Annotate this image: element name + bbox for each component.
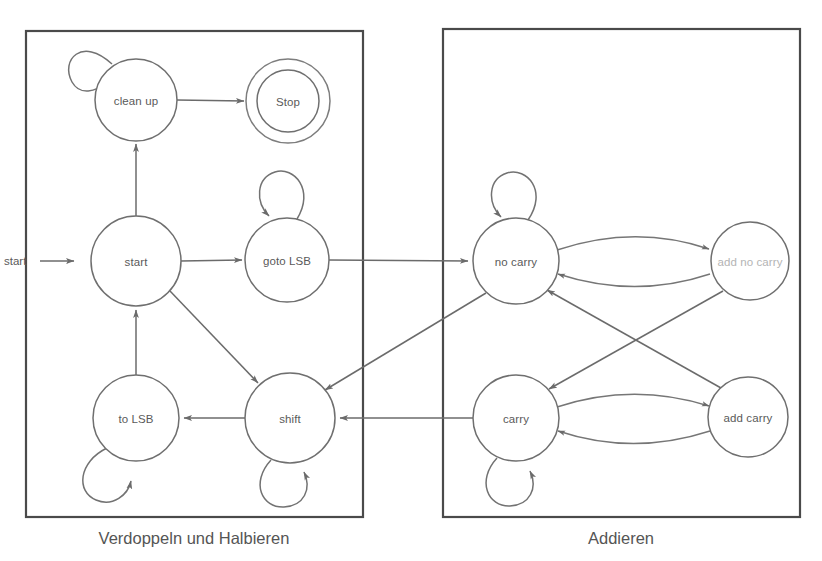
state-node-clean-up[interactable]: clean up [95, 59, 177, 141]
transition-cleanup-to-stop [177, 100, 244, 101]
state-node-no-carry[interactable]: no carry [473, 218, 559, 304]
state-node-add-no-carry[interactable]: add no carry [711, 222, 789, 300]
transition-nocarry-to-shift [325, 293, 486, 390]
state-label-start: start [125, 256, 149, 268]
transition-gotolsb-to-nocarry [329, 260, 468, 261]
transition-carry-to-addcarry [557, 394, 709, 407]
state-label-stop: Stop [276, 96, 300, 108]
state-label-carry: carry [503, 413, 529, 425]
state-diagram: clean up Stop start goto LSB to LSB shif… [0, 0, 822, 561]
self-loop-carry [486, 458, 533, 506]
state-label-to-lsb: to LSB [118, 413, 153, 425]
state-label-shift: shift [279, 413, 301, 425]
state-node-start[interactable]: start [91, 216, 181, 306]
state-node-goto-lsb[interactable]: goto LSB [245, 218, 329, 302]
self-loop-nocarry [491, 172, 536, 220]
state-label-no-carry: no carry [495, 256, 537, 268]
state-node-to-lsb[interactable]: to LSB [93, 375, 179, 461]
state-label-add-carry: add carry [724, 412, 773, 424]
group-caption-right: Addieren [588, 529, 654, 547]
state-label-add-no-carry: add no carry [717, 256, 782, 268]
transition-addcarry-to-carry [558, 431, 710, 444]
state-label-goto-lsb: goto LSB [263, 255, 311, 267]
transition-start-to-shift [170, 291, 258, 383]
transition-nocarry-to-addnocarry [557, 237, 709, 250]
state-node-stop[interactable]: Stop [246, 59, 330, 143]
state-node-shift[interactable]: shift [245, 373, 335, 463]
entry-label-start: start [4, 255, 27, 267]
self-loop-shift [260, 460, 307, 507]
transition-addnocarry-to-nocarry [558, 274, 710, 287]
self-loop-gotolsb [259, 171, 303, 219]
state-diagram-canvas: clean up Stop start goto LSB to LSB shif… [0, 0, 822, 561]
transition-addcarry-to-nocarry [547, 290, 721, 388]
transition-start-to-gotolsb [181, 260, 242, 261]
state-node-add-carry[interactable]: add carry [708, 377, 788, 457]
state-node-carry[interactable]: carry [473, 375, 559, 461]
group-caption-left: Verdoppeln und Halbieren [99, 529, 290, 547]
state-label-clean-up: clean up [114, 95, 158, 107]
